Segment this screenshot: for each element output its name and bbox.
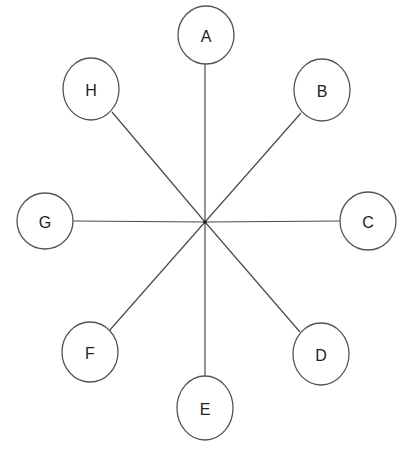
spoke-f [109, 222, 205, 331]
node-d: D [293, 323, 349, 385]
spoke-d [205, 222, 300, 332]
hub-point [203, 220, 206, 223]
node-label: D [315, 347, 327, 364]
node-label: A [201, 28, 212, 45]
star-diagram: ABCDEFGH [0, 0, 407, 452]
node-label: B [317, 83, 328, 100]
node-label: E [200, 401, 211, 418]
node-label: G [39, 214, 51, 231]
node-e: E [177, 376, 233, 440]
node-label: H [85, 82, 97, 99]
node-h: H [63, 58, 119, 120]
node-f: F [62, 322, 118, 382]
node-g: G [17, 193, 73, 249]
node-c: C [340, 192, 396, 250]
spoke-g [73, 221, 205, 222]
spoke-b [205, 113, 301, 222]
node-label: F [85, 345, 95, 362]
node-a: A [178, 6, 234, 64]
node-b: B [294, 59, 350, 121]
spoke-c [205, 221, 341, 222]
spoke-h [112, 112, 205, 222]
node-label: C [362, 214, 374, 231]
